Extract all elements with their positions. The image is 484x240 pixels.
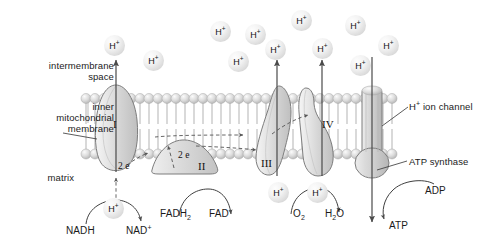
proton-ion-intermembrane-3: H+ — [245, 24, 266, 45]
proton-ion-label: H+ — [383, 40, 393, 50]
proton-ion-label: H+ — [273, 187, 283, 197]
label-h-ion-channel: H+ ion channel — [409, 101, 473, 112]
proton-ion-intermembrane-9: H+ — [350, 55, 371, 76]
proton-ion-label: H+ — [250, 29, 260, 39]
label-nadh: NADH — [66, 225, 95, 236]
proton-ion-label: H+ — [317, 43, 327, 53]
proton-ion-label: H+ — [312, 187, 322, 197]
label-h2o: H2O — [325, 208, 344, 219]
complex-iii-label: III — [261, 157, 272, 169]
label-nad-plus: NAD+ — [126, 225, 152, 236]
proton-ion-matrix-0: H+ — [103, 198, 124, 219]
proton-ion-label: H+ — [296, 15, 306, 25]
complex-iv-label: IV — [322, 118, 334, 130]
proton-ion-label: H+ — [270, 44, 280, 54]
proton-ion-label: H+ — [108, 203, 118, 213]
proton-ion-label: H+ — [355, 60, 365, 70]
proton-ion-intermembrane-0: H+ — [104, 35, 125, 56]
label-fadh2: FADH2 — [160, 208, 191, 219]
complex-i-label: I — [113, 118, 117, 130]
electrons-complex-i: 2 e — [118, 161, 129, 171]
diagram-canvas: intermembrane space inner mitochondrial … — [0, 0, 484, 240]
label-intermembrane-space: intermembrane space — [18, 60, 114, 82]
proton-ion-label: H+ — [215, 26, 225, 36]
label-atp-synthase: ATP synthase — [409, 156, 468, 167]
proton-ion-intermembrane-2: H+ — [210, 21, 231, 42]
proton-ion-intermembrane-5: H+ — [291, 10, 312, 31]
proton-ion-label: H+ — [233, 56, 243, 66]
label-adp: ADP — [425, 185, 446, 196]
label-inner-mitochondrial-membrane: inner mitochondrial membrane — [2, 101, 114, 134]
proton-ion-intermembrane-4: H+ — [228, 51, 249, 72]
proton-ion-intermembrane-7: H+ — [312, 38, 333, 59]
label-atp: ATP — [389, 220, 408, 231]
proton-ion-intermembrane-10: H+ — [378, 35, 399, 56]
electrons-complex-ii: 2 e — [178, 150, 189, 160]
proton-ion-intermembrane-1: H+ — [143, 50, 164, 71]
label-o2: O2 — [293, 208, 305, 219]
complex-ii-label: II — [198, 160, 205, 172]
leader-ion-channel — [382, 107, 408, 126]
proton-ion-matrix-1: H+ — [268, 182, 289, 203]
proton-ion-intermembrane-6: H+ — [265, 39, 286, 60]
proton-ion-label: H+ — [109, 40, 119, 50]
proton-ion-label: H+ — [148, 55, 158, 65]
reaction-curves — [86, 181, 434, 224]
proton-ion-label: H+ — [350, 20, 360, 30]
label-fad: FAD — [209, 208, 229, 219]
proton-ion-matrix-2: H+ — [307, 182, 328, 203]
label-matrix: matrix — [10, 172, 74, 183]
proton-ion-intermembrane-8: H+ — [345, 15, 366, 36]
